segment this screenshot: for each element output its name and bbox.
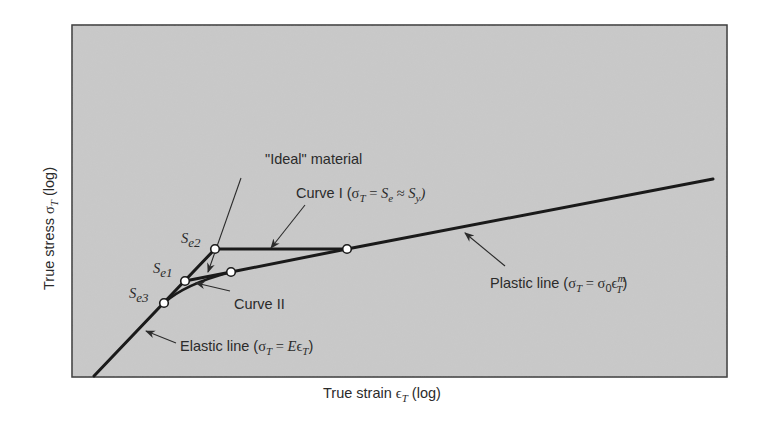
marker-curve2-end bbox=[227, 268, 236, 277]
marker-plastic-junction bbox=[343, 245, 352, 254]
marker-se3 bbox=[160, 299, 169, 308]
ideal-material-label: "Ideal" material bbox=[265, 151, 362, 167]
marker-se2 bbox=[211, 245, 220, 254]
marker-se1 bbox=[181, 277, 190, 286]
stress-strain-diagram: Se2 Se1 Se3 "Ideal" material Curve I (σT… bbox=[0, 0, 764, 429]
x-axis-label: True strain ϵT (log) bbox=[323, 385, 441, 404]
y-axis-label: True stress σT (log) bbox=[41, 167, 60, 290]
curve2-label: Curve II bbox=[234, 296, 285, 312]
